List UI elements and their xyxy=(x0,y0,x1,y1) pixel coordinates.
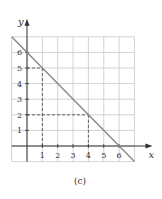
y-tick-label: 6 xyxy=(17,48,22,57)
x-tick-label: 4 xyxy=(86,151,91,160)
x-tick-label: 6 xyxy=(117,151,122,160)
ticks: 123456123456 xyxy=(17,48,122,160)
y-tick-label: 3 xyxy=(17,95,22,104)
x-tick-label: 2 xyxy=(55,151,60,160)
x-tick-label: 5 xyxy=(101,151,106,160)
y-tick-label: 2 xyxy=(17,111,22,120)
x-axis-arrow xyxy=(145,144,152,149)
y-tick-label: 1 xyxy=(17,126,22,135)
x-tick-label: 3 xyxy=(71,151,76,160)
chart: 123456123456 x y (c) xyxy=(0,0,162,199)
x-tick-label: 1 xyxy=(40,151,45,160)
x-axis-label: x xyxy=(148,149,154,160)
y-tick-label: 5 xyxy=(17,64,22,73)
y-axis-arrow xyxy=(25,19,30,26)
y-axis-label: y xyxy=(17,16,24,27)
y-tick-label: 4 xyxy=(17,80,22,89)
chart-caption: (c) xyxy=(74,176,86,186)
